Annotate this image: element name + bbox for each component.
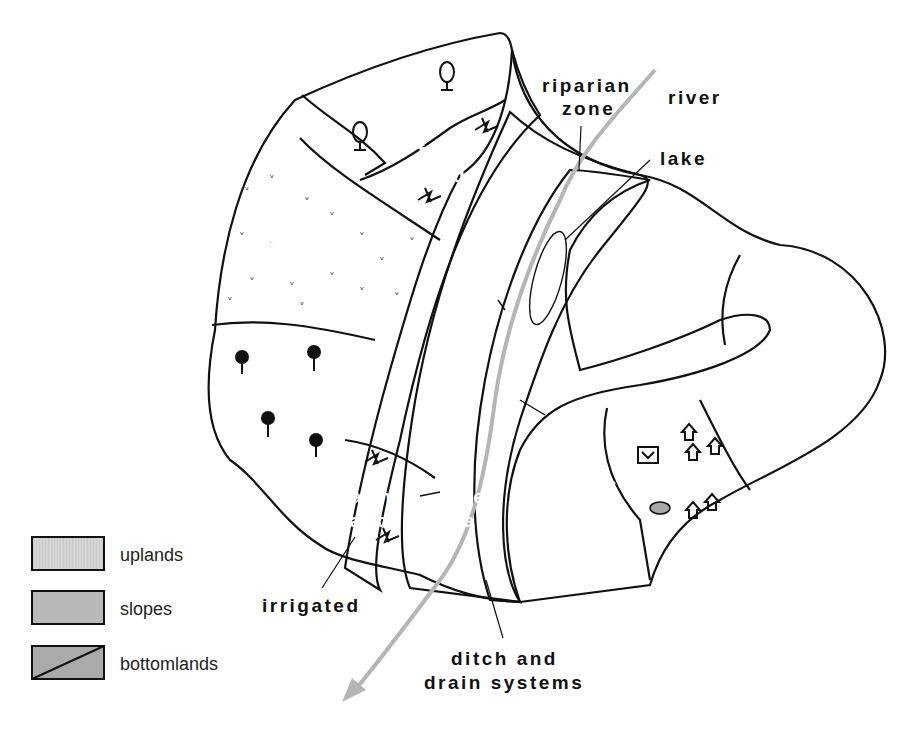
svg-text:ᵥ: ᵥ bbox=[300, 296, 304, 307]
uplands-region bbox=[209, 33, 885, 602]
legend-label-uplands: uplands bbox=[120, 545, 183, 565]
svg-text:ᵥ: ᵥ bbox=[240, 226, 244, 237]
label-farmland-bottom-2: land bbox=[342, 510, 391, 531]
svg-text:ᵥ: ᵥ bbox=[270, 169, 274, 180]
label-farmland-top-1: farm- bbox=[418, 140, 478, 161]
svg-text:ᵥ: ᵥ bbox=[360, 281, 364, 292]
map-body bbox=[209, 33, 885, 602]
house-icon bbox=[682, 424, 722, 518]
svg-text:ᵥ: ᵥ bbox=[360, 226, 364, 237]
svg-text:ᵥ: ᵥ bbox=[395, 286, 399, 297]
legend-swatch-slopes bbox=[32, 591, 104, 624]
legend-swatch-uplands bbox=[32, 537, 104, 570]
svg-text:ᵥ: ᵥ bbox=[305, 191, 309, 202]
legend: uplands slopes bottomlands bbox=[32, 537, 218, 679]
river-line bbox=[355, 70, 655, 690]
legend-label-slopes: slopes bbox=[120, 599, 172, 619]
label-farmland-bottom-1: farm- bbox=[342, 486, 402, 507]
callout-lake: lake bbox=[660, 148, 707, 169]
callout-ditch-2: drain systems bbox=[424, 672, 584, 693]
legend-label-bottomlands: bottomlands bbox=[120, 654, 218, 674]
label-pasture: pasture bbox=[263, 229, 349, 250]
svg-text:ᵥ: ᵥ bbox=[330, 206, 334, 217]
svg-text:ᵥ: ᵥ bbox=[330, 266, 334, 277]
label-forest: forest bbox=[372, 93, 440, 114]
callout-irrigated: irrigated bbox=[262, 595, 361, 616]
callout-riparian-2: zone bbox=[562, 98, 615, 119]
svg-text:ᵥ: ᵥ bbox=[410, 231, 414, 242]
bottomlands-channel bbox=[474, 170, 770, 602]
label-wetland-1: wet- bbox=[455, 486, 504, 507]
svg-text:ᵥ: ᵥ bbox=[228, 291, 232, 302]
svg-text:ᵥ: ᵥ bbox=[250, 271, 254, 282]
svg-text:ᵥ: ᵥ bbox=[380, 251, 384, 262]
label-farmland-top-2: land bbox=[418, 165, 467, 186]
label-bush: bush bbox=[266, 381, 321, 402]
callout-river: river bbox=[668, 87, 722, 108]
callout-ditch-1: ditch and bbox=[451, 648, 558, 669]
callout-riparian-1: riparian bbox=[542, 75, 632, 96]
landscape-diagram: ᵥᵥᵥᵥ ᵥᵥᵥᵥ ᵥᵥᵥᵥ ᵥᵥᵥᵥ forest farm- land pa… bbox=[0, 0, 915, 729]
pond-icon bbox=[650, 502, 670, 514]
label-wetland-2: land bbox=[456, 510, 505, 531]
label-settlement: settlement bbox=[606, 474, 726, 495]
svg-text:ᵥ: ᵥ bbox=[245, 181, 249, 192]
factory-icon bbox=[638, 447, 658, 463]
svg-text:ᵥ: ᵥ bbox=[290, 276, 294, 287]
